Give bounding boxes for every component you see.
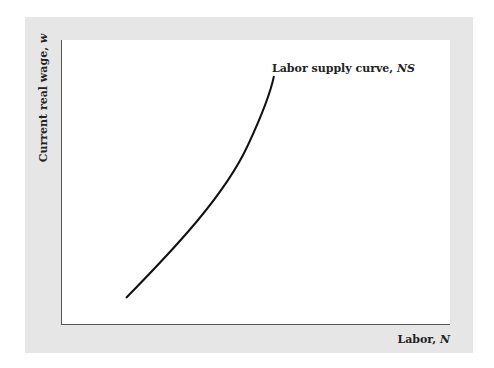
labor-supply-curve [0, 0, 494, 368]
curve-annotation: Labor supply curve, NS [272, 62, 415, 75]
y-axis-label: Current real wage, w [37, 34, 50, 163]
x-axis-label: Labor, N [397, 333, 450, 346]
